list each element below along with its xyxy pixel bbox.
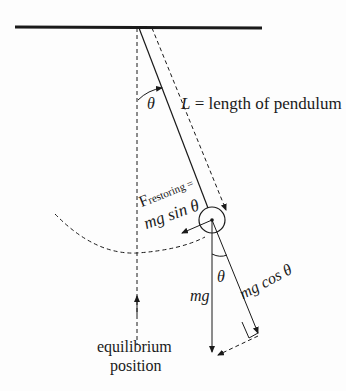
theta-arc-bottom bbox=[212, 254, 227, 256]
mg-label: mg bbox=[190, 287, 210, 305]
length-description: = length of pendulum bbox=[190, 94, 341, 113]
theta-top-label: θ bbox=[147, 95, 155, 113]
equilibrium-label-line1: equilibrium bbox=[97, 338, 172, 356]
right-angle-marker bbox=[242, 322, 258, 338]
sin-component-dashed bbox=[218, 336, 258, 355]
pendulum-diagram: θ L = length of pendulum Frestoring = mg… bbox=[0, 0, 346, 391]
equilibrium-label-line2: position bbox=[110, 357, 162, 375]
ceiling-bar bbox=[15, 27, 262, 28]
length-label: L = length of pendulum bbox=[181, 94, 342, 114]
theta-bottom-label: θ bbox=[217, 268, 225, 286]
restoring-force-arrow bbox=[182, 220, 212, 233]
